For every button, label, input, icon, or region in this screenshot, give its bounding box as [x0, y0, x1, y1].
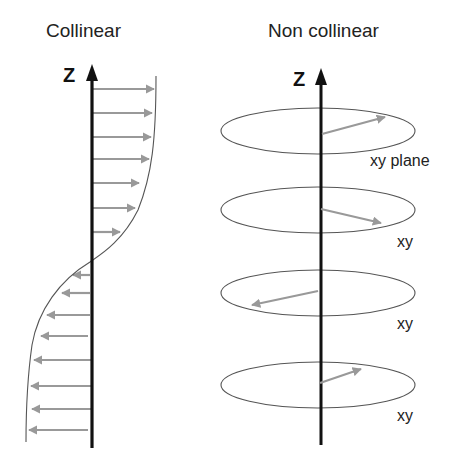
xy-plane-ellipse — [221, 187, 415, 233]
spin-arrow — [320, 369, 361, 383]
spin-arrow — [322, 117, 385, 134]
collinear-panel: Collinear Z — [26, 20, 156, 448]
xy-plane: xy — [221, 187, 415, 250]
non-collinear-title: Non collinear — [268, 20, 380, 41]
non-collinear-z-axis-label: Z — [293, 68, 305, 90]
xy-planes: xy planexyxyxy — [221, 108, 430, 424]
xy-plane-label: xy — [397, 315, 413, 332]
non-collinear-z-axis-arrowhead-icon — [315, 68, 327, 85]
xy-plane-label: xy — [397, 407, 413, 424]
magnetization-diagram: Collinear Z Non collinear Z xy planexyxy… — [0, 0, 464, 470]
xy-plane-ellipse — [221, 362, 415, 408]
collinear-z-axis-arrowhead-icon — [86, 64, 98, 81]
non-collinear-spin-arrows — [252, 117, 385, 383]
xy-plane: xy plane — [221, 108, 430, 169]
non-collinear-panel: Non collinear Z xy planexyxyxy — [221, 20, 430, 445]
xy-plane-label: xy — [397, 233, 413, 250]
xy-plane-ellipse — [221, 108, 415, 154]
collinear-z-axis-label: Z — [63, 64, 75, 86]
xy-plane: xy — [221, 362, 415, 424]
xy-plane-ellipse — [221, 270, 415, 316]
xy-plane-label: xy plane — [370, 152, 430, 169]
spin-arrow — [321, 209, 381, 223]
xy-plane: xy — [221, 270, 415, 332]
spin-arrow — [252, 291, 318, 305]
collinear-title: Collinear — [46, 20, 122, 41]
